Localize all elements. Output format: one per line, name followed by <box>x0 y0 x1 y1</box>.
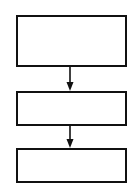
connector-layer <box>0 0 135 192</box>
arrow-down-icon <box>67 67 74 91</box>
arrow-down-icon <box>67 126 74 148</box>
